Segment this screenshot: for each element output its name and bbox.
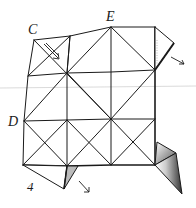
- step-number: 4: [27, 180, 34, 193]
- diag-e-left: [67, 27, 111, 73]
- label-c: C: [28, 23, 37, 37]
- diag-e-right: [111, 27, 155, 70]
- grid-lines: [23, 27, 155, 166]
- arrow-c-icon: [44, 43, 59, 59]
- right-top-flap: [155, 27, 174, 70]
- label-e: E: [106, 10, 115, 24]
- diag-right: [111, 70, 155, 119]
- diag-d-down: [24, 121, 67, 166]
- row-2: [28, 70, 155, 76]
- arrow-right-flap-icon: [171, 57, 184, 64]
- bottom-right-flap: [155, 142, 182, 194]
- row-1: [34, 27, 155, 40]
- scan-guide-line: [0, 86, 196, 88]
- col-1: [23, 40, 34, 165]
- arrow-bottom-flap-icon: [79, 181, 89, 192]
- row-3: [24, 119, 155, 121]
- diag-top-left: [67, 36, 70, 73]
- label-d: D: [8, 115, 18, 129]
